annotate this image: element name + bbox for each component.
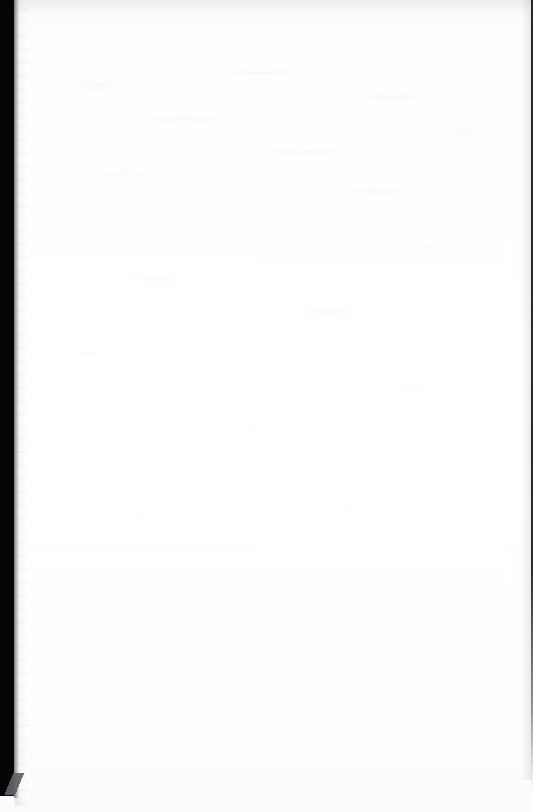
paper-surface: [0, 0, 533, 812]
scanner-gutter-shadow: [0, 0, 14, 796]
scanned-page: [0, 0, 533, 812]
